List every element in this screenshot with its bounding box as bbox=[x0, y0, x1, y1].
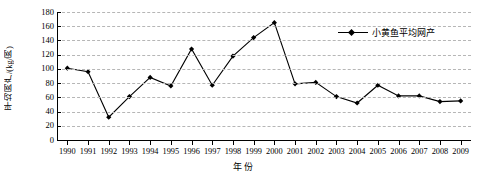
chart-figure: 平均网产/(kg/网) 180160140120100806040200 199… bbox=[0, 0, 487, 176]
gridline bbox=[57, 126, 471, 127]
x-axis-tick-mark bbox=[150, 141, 151, 145]
gridline bbox=[57, 97, 471, 98]
y-axis-tick-mark bbox=[57, 83, 61, 84]
x-axis-tick-mark bbox=[295, 141, 296, 145]
x-axis-tick-mark bbox=[419, 141, 420, 145]
x-axis-tick-mark bbox=[274, 141, 275, 145]
y-axis-title: 平均网产/(kg/网) bbox=[2, 18, 16, 138]
x-axis-tick-mark bbox=[233, 141, 234, 145]
x-axis-tick-mark bbox=[109, 141, 110, 145]
y-axis-tick-label: 80 bbox=[28, 79, 54, 88]
y-axis-tick-labels: 180160140120100806040200 bbox=[24, 12, 54, 140]
y-axis-tick-label: 160 bbox=[28, 22, 54, 31]
y-axis-tick-label: 140 bbox=[28, 36, 54, 45]
x-axis-tick-mark bbox=[357, 141, 358, 145]
x-axis-tick-mark bbox=[316, 141, 317, 145]
y-axis-tick-mark bbox=[57, 97, 61, 98]
x-axis-tick-mark bbox=[67, 141, 68, 145]
y-axis-tick-mark bbox=[57, 55, 61, 56]
x-axis-tick-mark bbox=[461, 141, 462, 145]
legend-label: 小黄鱼平均网产 bbox=[372, 26, 435, 39]
chart-legend: 小黄鱼平均网产 bbox=[338, 26, 435, 39]
y-axis-tick-mark bbox=[57, 140, 61, 141]
x-axis-title: 年份 bbox=[0, 160, 487, 173]
data-point-marker bbox=[458, 98, 463, 103]
y-axis-tick-mark bbox=[57, 126, 61, 127]
x-axis-tick-mark bbox=[212, 141, 213, 145]
x-axis-tick-mark bbox=[399, 141, 400, 145]
gridline bbox=[57, 40, 471, 41]
x-axis-tick-mark bbox=[171, 141, 172, 145]
x-axis-tick-mark bbox=[129, 141, 130, 145]
gridline bbox=[57, 12, 471, 13]
y-axis-tick-label: 120 bbox=[28, 50, 54, 59]
y-axis-tick-label: 60 bbox=[28, 93, 54, 102]
y-axis-tick-mark bbox=[57, 26, 61, 27]
data-point-marker bbox=[168, 83, 173, 88]
x-axis-tick-mark bbox=[88, 141, 89, 145]
gridline bbox=[57, 55, 471, 56]
y-axis-tick-mark bbox=[57, 69, 61, 70]
data-point-marker bbox=[85, 69, 90, 74]
y-axis-tick-label: 40 bbox=[28, 107, 54, 116]
legend-marker-icon bbox=[338, 28, 368, 38]
y-axis-tick-mark bbox=[57, 40, 61, 41]
gridline bbox=[57, 69, 471, 70]
gridline bbox=[57, 112, 471, 113]
y-axis-tick-label: 180 bbox=[28, 8, 54, 17]
x-axis-tick-label: 2009 bbox=[446, 147, 476, 157]
gridline bbox=[57, 83, 471, 84]
y-axis-tick-label: 20 bbox=[28, 121, 54, 130]
x-axis-line bbox=[57, 140, 471, 141]
x-axis-tick-mark bbox=[336, 141, 337, 145]
x-axis-tick-mark bbox=[378, 141, 379, 145]
y-axis-tick-label: 0 bbox=[28, 136, 54, 145]
y-axis-tick-label: 100 bbox=[28, 64, 54, 73]
x-axis-tick-mark bbox=[440, 141, 441, 145]
data-point-marker bbox=[437, 99, 442, 104]
y-axis-tick-mark bbox=[57, 12, 61, 13]
data-point-marker bbox=[189, 46, 194, 51]
x-axis-tick-mark bbox=[192, 141, 193, 145]
y-axis-tick-mark bbox=[57, 112, 61, 113]
x-axis-tick-mark bbox=[254, 141, 255, 145]
